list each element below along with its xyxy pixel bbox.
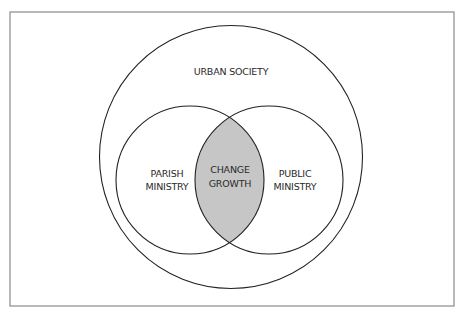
venn-diagram-figure: URBAN SOCIETY PARISH MINISTRY CHANGE GRO… [0, 0, 463, 311]
change-growth-label-line1: CHANGE [210, 164, 250, 175]
change-growth-label-line2: GROWTH [209, 178, 252, 189]
public-ministry-label-line1: PUBLIC [279, 168, 312, 179]
public-ministry-label-line2: MINISTRY [274, 181, 317, 192]
parish-ministry-label-line2: MINISTRY [146, 181, 189, 192]
parish-ministry-label-line1: PARISH [151, 168, 184, 179]
urban-society-label: URBAN SOCIETY [194, 66, 269, 77]
